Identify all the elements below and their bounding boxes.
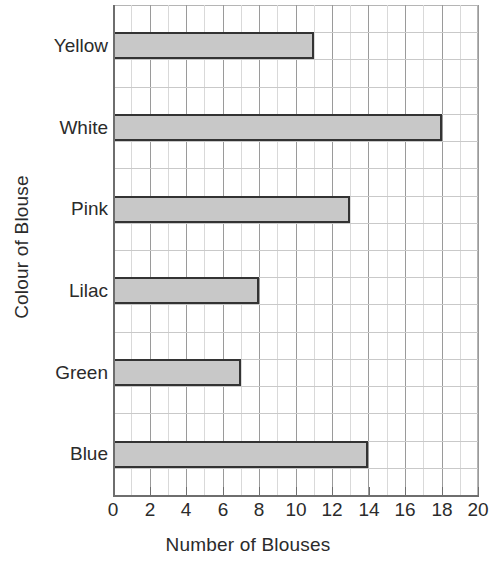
bar-lilac [113,277,259,304]
x-axis-tick [259,487,260,496]
gridline-horizontal [113,59,478,60]
x-axis-title: Number of Blouses [0,534,496,556]
x-axis-tick [113,487,114,496]
x-axis-tick-label-18: 18 [422,500,462,519]
gridline-horizontal [113,223,478,224]
gridline-horizontal [113,87,478,88]
x-axis-tick [478,487,479,496]
x-axis-tick-label-8: 8 [239,500,279,519]
gridline-horizontal [113,413,478,414]
x-axis-tick [405,487,406,496]
y-axis-tick-label-lilac: Lilac [4,281,108,300]
y-axis-tick-label-blue: Blue [4,444,108,463]
y-axis-line [113,5,115,497]
gridline-horizontal [113,168,478,169]
gridline-horizontal [113,141,478,142]
x-axis-tick [150,487,151,496]
y-axis-tick-label-green: Green [4,363,108,382]
x-axis-tick-label-20: 20 [458,500,496,519]
x-axis-tick [296,487,297,496]
x-axis-tick-label-12: 12 [312,500,352,519]
y-axis-tick-labels: YellowWhitePinkLilacGreenBlue [0,0,108,497]
x-axis-tick-label-10: 10 [276,500,316,519]
gridline-horizontal [113,304,478,305]
plot-area [113,5,478,495]
bar-white [113,114,442,141]
x-axis-tick-label-6: 6 [203,500,243,519]
bar-pink [113,196,350,223]
bar-green [113,359,241,386]
x-axis-tick [332,487,333,496]
bar-yellow [113,32,314,59]
x-axis-tick-label-14: 14 [349,500,389,519]
gridline-horizontal [113,468,478,469]
bar-chart: Colour of Blouse YellowWhitePinkLilacGre… [0,0,496,567]
x-axis-tick [186,487,187,496]
y-axis-tick-label-yellow: Yellow [4,36,108,55]
x-axis-tick-label-0: 0 [93,500,133,519]
gridline-horizontal [113,332,478,333]
x-axis-tick-label-16: 16 [385,500,425,519]
y-axis-tick-label-white: White [4,118,108,137]
y-axis-tick-label-pink: Pink [4,199,108,218]
x-axis-tick [369,487,370,496]
gridline-horizontal [113,250,478,251]
x-axis-tick-label-2: 2 [130,500,170,519]
x-axis-tick [442,487,443,496]
x-axis-tick [223,487,224,496]
bar-blue [113,441,368,468]
gridline-horizontal [113,386,478,387]
x-axis-tick-label-4: 4 [166,500,206,519]
gridline-vertical [478,5,479,495]
